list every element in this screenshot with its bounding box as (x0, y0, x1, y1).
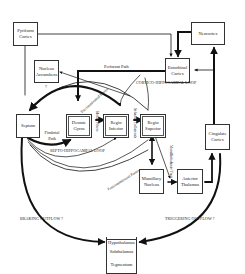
mamillothalamic-tract-label: Mamillothalamic Tract (169, 145, 173, 178)
cingulate-cortex-box: Cingulate Cortex (205, 124, 230, 150)
regio-superior-box: Regio Superior (140, 114, 166, 138)
anterior-thalamus-box: Anterior Thalamus (177, 169, 203, 194)
schaffer-collaterals-label: Schaffer Collaterals (133, 108, 137, 138)
tegmentum-label: Tegmentum (107, 262, 136, 268)
mamillary-nucleus-box: Mamillary Nucleus (139, 169, 164, 194)
mamillary-nucleus-label: Mamillary Nucleus (140, 176, 163, 187)
accumbens-question-mark: ? (45, 84, 47, 89)
dentate-gyrus-box: Dentate Gyrus (66, 114, 92, 138)
triggering-outflow-label: TRIGGERING OUTFLOW ? (165, 216, 215, 221)
mossy-fibers-label: Mossy Fibers (95, 111, 99, 132)
regio-inferior-label: Regio Inferior (104, 120, 128, 131)
anterior-thalamus-label: Anterior Thalamus (178, 176, 202, 187)
nucleus-accumbens-box: Nucleus Accumbens (34, 60, 59, 83)
pyriform-cortex-label: Pyriform Cortex (14, 28, 37, 39)
perforant-path-label: Perforant Path (104, 64, 129, 69)
neocortex-entorhinal-path (178, 32, 192, 56)
braking-outflow-label: BRAKING OUTFLOW ? (20, 216, 63, 221)
dentate-gyrus-label: Dentate Gyrus (67, 120, 91, 131)
subthalamus-label: Subthalamus (107, 249, 136, 255)
pyriform-cortex-box: Pyriform Cortex (13, 22, 38, 46)
hypothalamus-label: Hypothalamus (107, 239, 136, 246)
entorhinal-cortex-label: Entorhinal Cortex (166, 65, 189, 76)
nucleus-accumbens-label: Nucleus Accumbens (35, 66, 58, 77)
cingulate-cortex-label: Cingulate Cortex (206, 131, 229, 142)
neocortex-box: Neocortex (191, 22, 225, 45)
cortico-hippocampal-loop-label: CORTICO-HIPPOCAMPAL LOOP (136, 80, 196, 85)
pyriform-entorhinal-path (38, 34, 171, 56)
fimbrial-path-label: Fimbrial Path (43, 130, 61, 141)
septo-hippocampal-loop-label: SEPTO-HIPPOCAMPAL LOOP (50, 148, 105, 153)
regio-superior-label: Regio Superior (141, 120, 165, 131)
perforant-path (78, 71, 166, 100)
septum-box: Septum (16, 114, 40, 138)
neocortex-label: Neocortex (198, 31, 217, 37)
septum-label: Septum (21, 123, 35, 129)
regio-inferior-box: Regio Inferior (103, 114, 129, 138)
hypothalamus-group-box: Hypothalamus Subthalamus Tegmentum (106, 237, 137, 274)
